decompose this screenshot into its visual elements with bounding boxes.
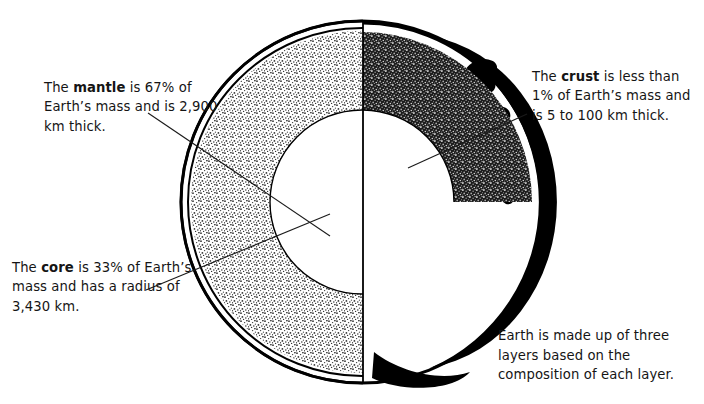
callout-crust: The crust is less than 1% of Earth’s mas… (532, 47, 704, 125)
callout-crust-term: crust (561, 69, 599, 84)
callout-mantle-term: mantle (73, 80, 125, 95)
callout-core: The core is 33% of Earth’s mass and has … (12, 238, 212, 316)
callout-summary: Earth is made up of three layers based o… (498, 326, 704, 385)
callout-core-lead: The (12, 260, 41, 275)
callout-mantle: The mantle is 67% of Earth’s mass and is… (44, 58, 224, 136)
callout-crust-lead: The (532, 69, 561, 84)
callout-core-term: core (41, 260, 74, 275)
callout-mantle-lead: The (44, 80, 73, 95)
